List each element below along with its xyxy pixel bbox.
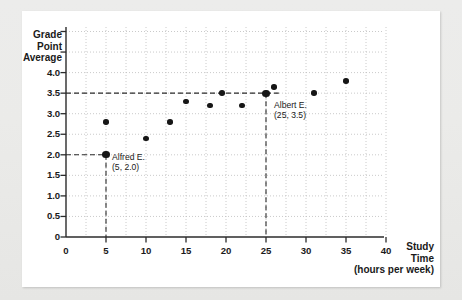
x-tick-label: 30: [286, 245, 326, 256]
x-tick-label: 0: [46, 245, 86, 256]
y-axis-title-line-1: Grade: [6, 29, 62, 41]
y-tick-label: 1.5: [20, 169, 60, 180]
y-tick-label: 3.0: [20, 108, 60, 119]
x-tick-label: 15: [166, 245, 206, 256]
x-tick-label: 5: [86, 245, 126, 256]
x-tick-label: 40: [366, 245, 406, 256]
annotation-albert-name: Albert E.: [274, 100, 307, 110]
y-tick-label: 2.0: [20, 149, 60, 160]
y-axis-title: Grade Point Average: [6, 29, 62, 64]
annotation-albert-coord: (25, 3.5): [274, 110, 307, 120]
y-axis-title-line-3: Average: [6, 52, 62, 64]
x-axis-title-line-3: (hours per week): [246, 264, 434, 276]
y-tick-label: 2.5: [20, 128, 60, 139]
annotation-alfred-coord: (5, 2.0): [112, 162, 145, 172]
y-tick-label: 1.0: [20, 190, 60, 201]
x-tick-label: 35: [326, 245, 366, 256]
x-tick-label: 25: [246, 245, 286, 256]
y-tick-label: 4.0: [20, 67, 60, 78]
scatter-plot-screenshot: Grade Point Average Study Time (hours pe…: [0, 0, 462, 300]
y-tick-label: 0.5: [20, 210, 60, 221]
annotation-albert: Albert E. (25, 3.5): [274, 100, 307, 121]
y-tick-label: 3.5: [20, 87, 60, 98]
x-tick-label: 20: [206, 245, 246, 256]
y-axis-title-line-2: Point: [6, 41, 62, 53]
annotation-alfred-name: Alfred E.: [112, 152, 145, 162]
annotation-alfred: Alfred E. (5, 2.0): [112, 152, 145, 173]
x-tick-label: 10: [126, 245, 166, 256]
y-tick-label: 0: [20, 231, 60, 242]
